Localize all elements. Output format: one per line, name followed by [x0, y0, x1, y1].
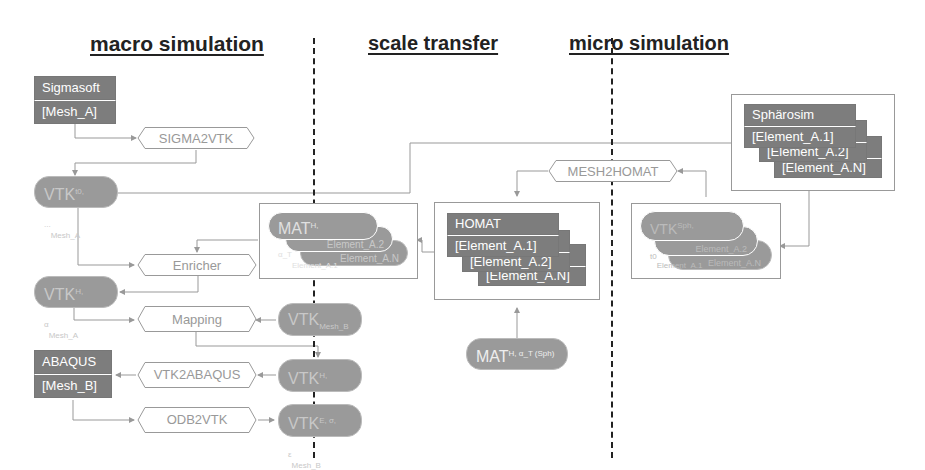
sigma2vtk-label: SIGMA2VTK	[159, 131, 233, 146]
sigmasoft-box-title: Sigmasoft	[34, 76, 116, 100]
heading-macro-simulation: macro simulation	[90, 32, 264, 56]
homat-title: HOMAT	[447, 213, 559, 235]
vtk2abaqus-process: VTK2ABAQUS	[137, 362, 257, 384]
odb2vtk-process: ODB2VTK	[137, 407, 257, 429]
vtk-mesh-b-result-pill: VTKE, σ, εMesh_B	[278, 404, 362, 437]
sigma2vtk-process: SIGMA2VTK	[137, 127, 255, 149]
mesh2homat-process: MESH2HOMAT	[548, 160, 678, 182]
abaqus-box-mesh: [Mesh_B]	[34, 374, 112, 398]
vtk-mesh-b-pill: VTKMesh_B	[278, 303, 362, 336]
abaqus-box-title: ABAQUS	[34, 350, 112, 374]
vtk-mesh-b-mapped-pill: VTKH, αMesh_B	[278, 359, 362, 392]
enricher-process: Enricher	[137, 254, 257, 276]
homat-frame: [Element_A.N] [Element_A.2] HOMAT [Eleme…	[434, 202, 600, 300]
vtk-stack-item-1: VTKSph, t0Element_A.1	[640, 211, 744, 241]
heading-scale-transfer: scale transfer	[368, 32, 498, 55]
mat-stack-frame: Element_A.N Element_A.2 MATH, α_TElement…	[259, 203, 418, 279]
spharosim-title: Sphärosim	[744, 104, 856, 126]
vtk-mesh-a-pill: VTKt0, ...Mesh_A	[34, 176, 118, 208]
spharosim-item-1: [Element_A.1]	[744, 126, 856, 148]
mat-stack-item-1: MATH, α_TElement_A.1	[268, 212, 378, 240]
heading-micro-simulation: micro simulation	[569, 32, 729, 55]
mapping-label: Mapping	[172, 312, 222, 327]
spharosim-frame: [Element_A.N] [Element_A.2] Sphärosim [E…	[731, 94, 895, 191]
sigmasoft-box-mesh: [Mesh_A]	[34, 100, 116, 124]
enricher-label: Enricher	[173, 258, 221, 273]
vtk2abaqus-label: VTK2ABAQUS	[154, 367, 241, 382]
separator-right	[611, 38, 613, 458]
odb2vtk-label: ODB2VTK	[167, 412, 228, 427]
homat-item-1: [Element_A.1]	[447, 235, 559, 257]
mapping-process: Mapping	[137, 306, 257, 328]
mat-sph-pill: MATH, α_T (Sph)	[466, 338, 568, 370]
vtk-stack-frame: Element_A.N Element_A.2 VTKSph, t0Elemen…	[631, 203, 781, 279]
vtk-mesh-a-enriched-pill: VTKH, αMesh_A	[34, 276, 118, 308]
mesh2homat-label: MESH2HOMAT	[568, 164, 659, 179]
